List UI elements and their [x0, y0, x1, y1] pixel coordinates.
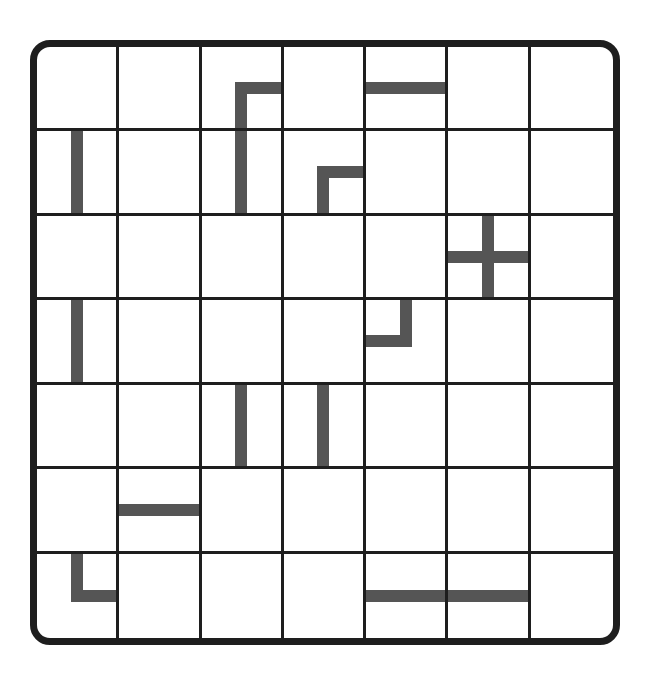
grid-cell-r4-c1[interactable] — [119, 385, 201, 469]
grid-cell-r3-c6[interactable] — [531, 300, 613, 384]
grid-cell-r0-c1[interactable] — [119, 47, 201, 131]
grid-cell-r1-c4[interactable] — [366, 131, 448, 215]
grid-cell-r2-c2[interactable] — [202, 216, 284, 300]
grid-cell-r6-c0[interactable] — [37, 554, 119, 638]
pipe-corner-left-icon — [366, 335, 412, 347]
pipe-straight-down-icon — [71, 335, 83, 382]
grid-cell-r2-c5[interactable] — [448, 216, 530, 300]
grid-cell-r5-c2[interactable] — [202, 469, 284, 553]
grid-cell-r0-c2[interactable] — [202, 47, 284, 131]
grid-cell-r6-c5[interactable] — [448, 554, 530, 638]
grid-cell-r5-c0[interactable] — [37, 469, 119, 553]
pipe-straight-down-icon — [71, 166, 83, 213]
grid-cell-r2-c4[interactable] — [366, 216, 448, 300]
grid-cell-r4-c3[interactable] — [284, 385, 366, 469]
grid-cell-r5-c5[interactable] — [448, 469, 530, 553]
grid-cell-r3-c1[interactable] — [119, 300, 201, 384]
grid-cell-r0-c4[interactable] — [366, 47, 448, 131]
grid-cell-r2-c0[interactable] — [37, 216, 119, 300]
grid-cell-r1-c3[interactable] — [284, 131, 366, 215]
grid-cell-r6-c2[interactable] — [202, 554, 284, 638]
grid-cell-r5-c6[interactable] — [531, 469, 613, 553]
pipe-corner-right-icon — [235, 82, 281, 94]
grid-cell-r3-c0[interactable] — [37, 300, 119, 384]
grid-cell-r2-c3[interactable] — [284, 216, 366, 300]
grid-cell-r0-c5[interactable] — [448, 47, 530, 131]
pipe-corner-right-icon — [317, 166, 363, 178]
pipe-straight-down-icon — [317, 419, 329, 466]
grid-cell-r4-c6[interactable] — [531, 385, 613, 469]
grid-cell-r1-c0[interactable] — [37, 131, 119, 215]
pipe-grid — [37, 47, 613, 638]
grid-cell-r3-c5[interactable] — [448, 300, 530, 384]
grid-cell-r0-c3[interactable] — [284, 47, 366, 131]
grid-cell-r1-c1[interactable] — [119, 131, 201, 215]
grid-cell-r1-c2[interactable] — [202, 131, 284, 215]
pipe-straight-down-icon — [235, 419, 247, 466]
pipe-straight-right-icon — [153, 504, 199, 516]
grid-cell-r1-c6[interactable] — [531, 131, 613, 215]
grid-cell-r6-c1[interactable] — [119, 554, 201, 638]
grid-cell-r4-c4[interactable] — [366, 385, 448, 469]
grid-cell-r2-c1[interactable] — [119, 216, 201, 300]
grid-cell-r2-c6[interactable] — [531, 216, 613, 300]
pipe-corner-right-icon — [71, 590, 117, 602]
grid-cell-r5-c1[interactable] — [119, 469, 201, 553]
grid-cell-r0-c0[interactable] — [37, 47, 119, 131]
grid-cell-r3-c3[interactable] — [284, 300, 366, 384]
grid-cell-r0-c6[interactable] — [531, 47, 613, 131]
pipe-straight-right-icon — [400, 590, 446, 602]
grid-cell-r6-c4[interactable] — [366, 554, 448, 638]
pipe-straight-down-icon — [235, 166, 247, 213]
grid-cell-r4-c5[interactable] — [448, 385, 530, 469]
grid-cell-r3-c2[interactable] — [202, 300, 284, 384]
pipe-straight-right-icon — [400, 82, 446, 94]
pipe-cross-right-icon — [482, 251, 528, 263]
game-board — [30, 40, 620, 645]
grid-cell-r6-c3[interactable] — [284, 554, 366, 638]
grid-cell-r5-c4[interactable] — [366, 469, 448, 553]
grid-cell-r3-c4[interactable] — [366, 300, 448, 384]
grid-cell-r4-c0[interactable] — [37, 385, 119, 469]
grid-cell-r4-c2[interactable] — [202, 385, 284, 469]
grid-cell-r1-c5[interactable] — [448, 131, 530, 215]
pipe-straight-right-icon — [482, 590, 528, 602]
grid-cell-r5-c3[interactable] — [284, 469, 366, 553]
grid-cell-r6-c6[interactable] — [531, 554, 613, 638]
